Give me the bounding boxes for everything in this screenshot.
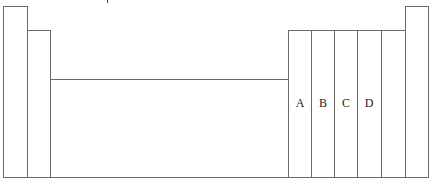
group-17-column <box>381 30 406 178</box>
transition-metal-block <box>50 79 289 178</box>
group-1-column <box>3 6 28 178</box>
group-2-column <box>27 30 51 178</box>
label-c: C <box>335 96 357 111</box>
label-b: B <box>312 96 334 111</box>
label-a: A <box>289 96 311 111</box>
label-d: D <box>358 96 380 111</box>
group-18-column <box>405 6 429 178</box>
top-edge-mark <box>107 0 108 3</box>
